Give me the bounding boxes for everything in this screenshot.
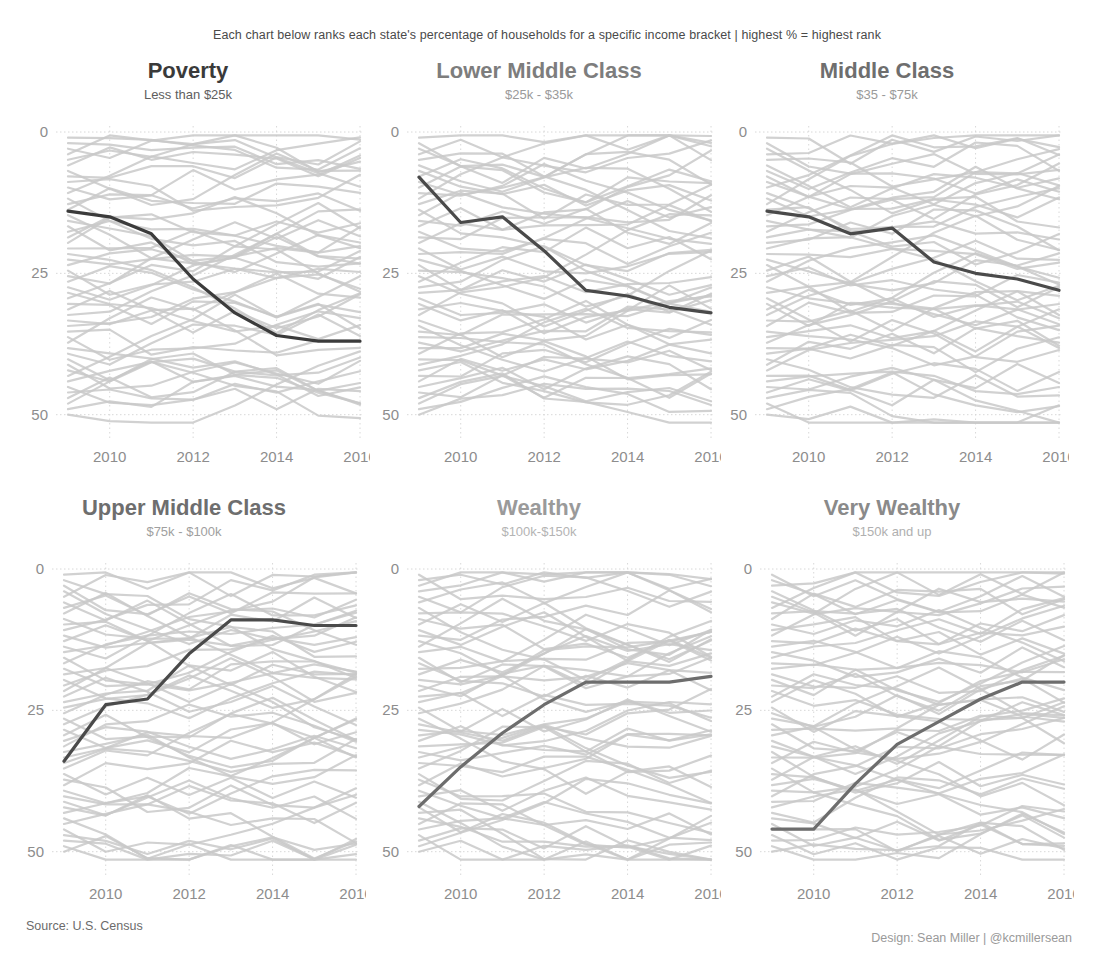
y-tick-label: 25 <box>382 264 399 281</box>
x-tick-label: 2014 <box>959 448 992 465</box>
plot-area: 025502010201220142016 <box>710 557 1074 907</box>
panel-poverty: Poverty Less than $25k 02550201020122014… <box>6 58 370 478</box>
panel-title: Lower Middle Class <box>357 58 721 84</box>
y-tick-label: 25 <box>735 701 752 718</box>
y-tick-label: 0 <box>744 560 752 577</box>
x-tick-label: 2012 <box>172 885 205 902</box>
y-tick-label: 25 <box>382 701 399 718</box>
panel-subtitle: Less than $25k <box>6 86 370 104</box>
y-tick-label: 25 <box>31 264 48 281</box>
background-state-lines <box>68 135 360 422</box>
y-tick-label: 50 <box>27 843 44 860</box>
x-tick-label: 2014 <box>611 885 644 902</box>
design-credit: Design: Sean Miller | @kcmillersean <box>871 931 1072 945</box>
background-state-lines <box>419 572 711 859</box>
panel-upper-middle-class: Upper Middle Class $75k - $100k 02550201… <box>2 495 366 915</box>
bump-chart-svg: 025502010201220142016 <box>6 120 370 470</box>
panel-title: Wealthy <box>357 495 721 521</box>
bump-chart-svg: 025502010201220142016 <box>357 557 721 907</box>
y-tick-label: 50 <box>31 406 48 423</box>
panel-lower-middle-class: Lower Middle Class $25k - $35k 025502010… <box>357 58 721 478</box>
panel-subtitle: $100k-$150k <box>357 523 721 541</box>
panel-subtitle: $25k - $35k <box>357 86 721 104</box>
x-tick-label: 2012 <box>527 885 560 902</box>
y-tick-label: 0 <box>36 560 44 577</box>
panel-title: Very Wealthy <box>710 495 1074 521</box>
x-tick-label: 2010 <box>792 448 825 465</box>
y-tick-label: 25 <box>27 701 44 718</box>
x-tick-label: 2010 <box>797 885 830 902</box>
panel-title: Poverty <box>6 58 370 84</box>
x-tick-label: 2016 <box>1047 885 1074 902</box>
chart-grid: Poverty Less than $25k 02550201020122014… <box>0 58 1094 898</box>
x-tick-label: 2010 <box>444 448 477 465</box>
x-tick-label: 2014 <box>611 448 644 465</box>
y-tick-label: 50 <box>730 406 747 423</box>
bump-chart-svg: 025502010201220142016 <box>705 120 1069 470</box>
panel-wealthy: Wealthy $100k-$150k 02550201020122014201… <box>357 495 721 915</box>
panel-subtitle: $75k - $100k <box>2 523 366 541</box>
y-tick-label: 50 <box>382 843 399 860</box>
bump-chart-svg: 025502010201220142016 <box>2 557 366 907</box>
x-tick-label: 2012 <box>880 885 913 902</box>
panel-middle-class: Middle Class $35 - $75k 0255020102012201… <box>705 58 1069 478</box>
x-tick-label: 2014 <box>964 885 997 902</box>
y-tick-label: 0 <box>391 123 399 140</box>
y-tick-label: 0 <box>40 123 48 140</box>
x-tick-label: 2010 <box>93 448 126 465</box>
x-tick-label: 2010 <box>444 885 477 902</box>
x-tick-label: 2012 <box>875 448 908 465</box>
plot-area: 025502010201220142016 <box>705 120 1069 470</box>
panel-very-wealthy: Very Wealthy $150k and up 02550201020122… <box>710 495 1074 915</box>
panel-title: Middle Class <box>705 58 1069 84</box>
y-tick-label: 50 <box>735 843 752 860</box>
chart-subtitle-banner: Each chart below ranks each state's perc… <box>0 28 1094 42</box>
background-state-lines <box>419 135 711 422</box>
x-tick-label: 2012 <box>527 448 560 465</box>
y-tick-label: 0 <box>391 560 399 577</box>
y-tick-label: 0 <box>739 123 747 140</box>
x-tick-label: 2010 <box>89 885 122 902</box>
panel-subtitle: $35 - $75k <box>705 86 1069 104</box>
source-credit: Source: U.S. Census <box>26 919 143 933</box>
background-state-lines <box>772 572 1064 859</box>
bump-chart-svg: 025502010201220142016 <box>710 557 1074 907</box>
plot-area: 025502010201220142016 <box>6 120 370 470</box>
panel-subtitle: $150k and up <box>710 523 1074 541</box>
plot-area: 025502010201220142016 <box>2 557 366 907</box>
bump-chart-svg: 025502010201220142016 <box>357 120 721 470</box>
y-tick-label: 25 <box>730 264 747 281</box>
y-tick-label: 50 <box>382 406 399 423</box>
x-tick-label: 2014 <box>256 885 289 902</box>
x-tick-label: 2014 <box>260 448 293 465</box>
panel-title: Upper Middle Class <box>2 495 366 521</box>
plot-area: 025502010201220142016 <box>357 120 721 470</box>
plot-area: 025502010201220142016 <box>357 557 721 907</box>
background-state-lines <box>64 572 356 859</box>
x-tick-label: 2012 <box>176 448 209 465</box>
x-tick-label: 2016 <box>1042 448 1069 465</box>
